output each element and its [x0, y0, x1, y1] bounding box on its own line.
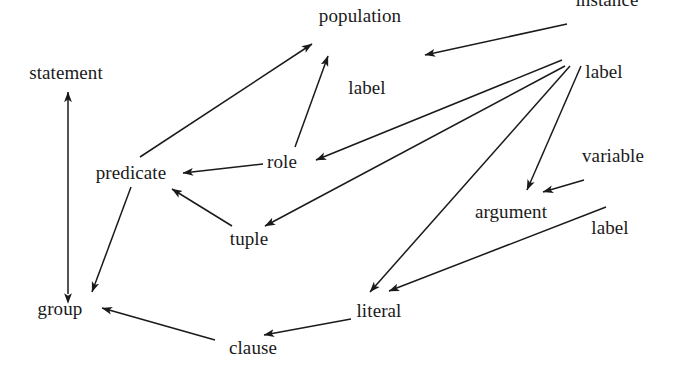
node-statement[interactable]: statement	[29, 61, 103, 84]
node-population-line2: label	[333, 76, 401, 100]
node-instance-line1: instance	[575, 0, 638, 12]
node-population-label[interactable]: population label	[319, 0, 401, 148]
node-clause[interactable]: clause	[229, 336, 277, 359]
node-population-line1: population	[319, 4, 401, 28]
edge-clause-group	[102, 308, 215, 340]
node-variable-line2: label	[576, 216, 644, 240]
node-literal[interactable]: literal	[356, 299, 401, 322]
edge-literal-clause	[264, 319, 351, 335]
node-argument[interactable]: argument	[475, 200, 547, 223]
node-instance-line2: label	[569, 60, 638, 84]
edge-tuple-predicate	[172, 189, 232, 226]
node-group[interactable]: group	[38, 297, 83, 320]
node-tuple[interactable]: tuple	[230, 227, 269, 250]
edge-predicate-population	[140, 44, 312, 157]
edge-variable-argument	[543, 180, 584, 192]
node-variable-label[interactable]: variable label	[582, 96, 644, 288]
diagram-canvas: statement population label instance labe…	[0, 0, 686, 372]
node-variable-line1: variable	[582, 144, 644, 168]
node-role[interactable]: role	[267, 150, 297, 173]
edge-predicate-group	[92, 187, 131, 292]
edge-role-predicate	[183, 164, 263, 173]
edge-instance-population	[425, 24, 567, 55]
node-predicate[interactable]: predicate	[96, 161, 167, 184]
